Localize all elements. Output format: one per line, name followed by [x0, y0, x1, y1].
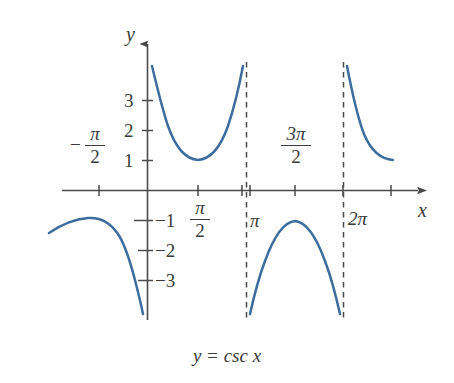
neg-pi-over-2-numerator: π — [85, 124, 105, 146]
three-pi-over-2-denominator: 2 — [281, 146, 311, 167]
y-tick-label-neg3: −3 — [155, 271, 175, 290]
pi-over-2-numerator: π — [190, 198, 210, 220]
three-pi-over-2-numerator: 3π — [281, 124, 311, 146]
x-tick-label-neg-pi-over-2: π 2 — [85, 124, 105, 167]
x-tick-label-2pi: 2π — [348, 209, 367, 228]
branch-negative-second — [250, 221, 340, 314]
x-tick-label-pi-over-2: π 2 — [190, 198, 210, 241]
neg-pi-over-2-denominator: 2 — [85, 146, 105, 167]
branch-positive-first — [152, 66, 243, 160]
y-tick-label-1: 1 — [124, 151, 134, 170]
figure-caption: y = csc x — [0, 345, 454, 367]
x-tick-label-3pi-over-2: 3π 2 — [281, 124, 311, 167]
branch-negative-left — [49, 218, 143, 314]
neg-pi-over-2-minus-sign: − — [70, 134, 81, 156]
pi-over-2-denominator: 2 — [190, 220, 210, 241]
x-axis-label: x — [418, 200, 427, 220]
x-tick-label-pi: π — [250, 211, 260, 230]
y-tick-label-3: 3 — [124, 91, 134, 110]
branch-positive-second — [347, 66, 393, 160]
y-tick-label-neg1: −1 — [155, 211, 175, 230]
csc-graph-figure: 3 2 1 −1 −2 −3 y x − π 2 π 2 π 3π 2 2π y… — [0, 0, 454, 383]
y-axis-label: y — [126, 24, 135, 44]
plot-canvas — [0, 0, 454, 383]
y-tick-label-neg2: −2 — [155, 241, 175, 260]
y-tick-label-2: 2 — [124, 121, 134, 140]
